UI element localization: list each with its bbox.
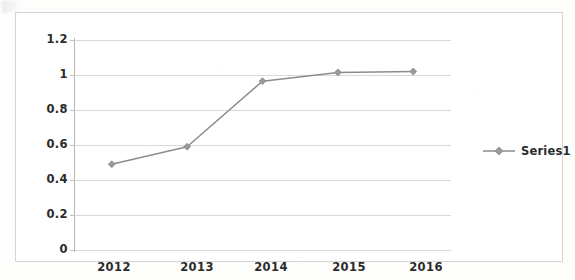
x-tick-label: 2016 [409, 260, 443, 274]
y-tick-label: 0.6 [24, 139, 68, 151]
y-tick-label: 0.2 [24, 209, 68, 221]
series1-polyline [112, 72, 414, 165]
series1-markers [108, 68, 416, 168]
series1-line-chart [74, 40, 451, 250]
data-point-marker [410, 68, 417, 75]
legend-marker-icon [482, 145, 516, 157]
y-tick-label: 1.2 [24, 34, 68, 46]
x-tick-label: 2014 [254, 260, 288, 274]
legend-item-label: Series1 [521, 144, 571, 158]
chart-legend: Series1 [482, 144, 571, 158]
x-tick-label: 2012 [97, 260, 131, 274]
y-tick-label: 0.4 [24, 174, 68, 186]
y-tick-mark [70, 75, 75, 76]
x-axis-tick-labels: 2012 2013 2014 2015 2016 [74, 260, 451, 280]
y-tick-mark [70, 40, 75, 41]
gridline [74, 250, 451, 251]
y-tick-mark [70, 110, 75, 111]
data-point-marker [335, 69, 342, 76]
y-tick-mark [70, 180, 75, 181]
plot-area [74, 40, 451, 250]
y-tick-label: 0.8 [24, 104, 68, 116]
y-tick-mark [70, 145, 75, 146]
x-tick-label: 2015 [332, 260, 366, 274]
data-point-marker [108, 161, 115, 168]
y-tick-label: 1 [24, 69, 68, 81]
chart-frame: 1.2 1 0.8 0.6 0.4 0.2 0 2012 2013 2014 2… [15, 12, 563, 262]
y-tick-mark [70, 250, 75, 251]
y-tick-label: 0 [24, 244, 68, 256]
y-axis-tick-labels: 1.2 1 0.8 0.6 0.4 0.2 0 [22, 13, 68, 280]
y-tick-mark [70, 215, 75, 216]
x-tick-label: 2013 [180, 260, 214, 274]
